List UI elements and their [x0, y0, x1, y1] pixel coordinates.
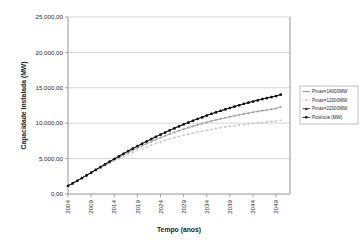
x-tick-label: 2009: [87, 199, 94, 213]
x-tick-label: 2004: [64, 199, 71, 213]
x-tick-label: 2049: [272, 199, 279, 213]
legend-label: Pmax=12000MW: [312, 98, 348, 103]
y-tick-label: 5.000,00: [39, 155, 64, 162]
x-tick-label: 2034: [203, 199, 210, 213]
x-tick-label: 2029: [180, 199, 187, 213]
x-axis-title: Tempo (anos): [157, 226, 201, 234]
y-axis-title: Capacidade Instalada (MW): [20, 62, 28, 150]
chart-legend: Pmax=14000MWPmax=12000MWPmax=22000MWPotê…: [300, 86, 358, 124]
y-tick-label: 0,00: [51, 190, 64, 197]
y-tick-label: 25.000,00: [35, 13, 63, 20]
x-tick-label: 2044: [249, 199, 256, 213]
installed-capacity-line-chart: 0,005.000,0010.000,0015.000,0020.000,002…: [0, 0, 362, 240]
y-tick-label: 10.000,00: [35, 119, 63, 126]
x-tick-label: 2024: [157, 199, 164, 213]
chart-container: 0,005.000,0010.000,0015.000,0020.000,002…: [0, 0, 362, 240]
y-tick-label: 20.000,00: [35, 49, 63, 56]
y-tick-label: 15.000,00: [35, 84, 63, 91]
legend-label: Potência (MW): [312, 115, 343, 120]
x-tick-label: 2014: [110, 199, 117, 213]
x-tick-label: 2039: [226, 199, 233, 213]
legend-label: Pmax=14000MW: [312, 89, 348, 94]
x-tick-label: 2019: [134, 199, 141, 213]
legend-label: Pmax=22000MW: [312, 106, 348, 111]
